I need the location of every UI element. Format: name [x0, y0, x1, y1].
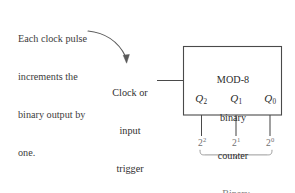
power-label-q1: 21	[224, 137, 248, 150]
clock-or-input-trigger-label: Clock or input trigger	[104, 62, 156, 193]
q1-subscript: 1	[238, 98, 242, 106]
power-exponent-q0: 0	[271, 136, 274, 143]
q2-subscript: 2	[203, 98, 207, 106]
power-label-q2: 22	[190, 137, 214, 150]
output-label-q2: Q2	[188, 93, 214, 107]
clock-label-line-2: input	[104, 125, 156, 138]
counter-label-line-1: MOD-8	[185, 74, 281, 87]
counter-block-diagram-figure: Each clock pulse increments the binary o…	[0, 0, 295, 193]
annotation-line-4: one.	[18, 147, 104, 160]
q0-symbol: Q	[264, 92, 272, 104]
clock-label-line-3: trigger	[104, 163, 156, 176]
q0-subscript: 0	[272, 98, 276, 106]
q2-symbol: Q	[195, 92, 203, 104]
power-exponent-q2: 2	[203, 136, 206, 143]
q1-symbol: Q	[230, 92, 238, 104]
power-exponent-q1: 1	[237, 136, 240, 143]
binary-output-caption: Binary output	[200, 162, 272, 193]
output-label-q1: Q1	[223, 93, 249, 107]
annotation-line-3: binary output by	[18, 109, 104, 122]
output-label-q0: Q0	[257, 93, 283, 107]
power-label-q0: 20	[258, 137, 282, 150]
annotation-line-1: Each clock pulse	[18, 33, 104, 46]
counter-label-line-3: counter	[185, 150, 281, 163]
binary-output-line-1: Binary	[200, 188, 272, 193]
clock-pulse-annotation: Each clock pulse increments the binary o…	[18, 8, 104, 184]
annotation-line-2: increments the	[18, 71, 104, 84]
counter-label-line-2: binary	[185, 112, 281, 125]
clock-label-line-1: Clock or	[104, 87, 156, 100]
